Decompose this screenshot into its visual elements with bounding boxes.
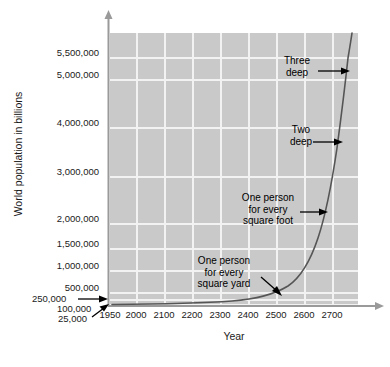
gridline-horizontal bbox=[110, 248, 358, 250]
gridline-horizontal bbox=[110, 57, 358, 59]
y-tick-label-25000: 25,000 bbox=[58, 314, 87, 324]
y-tick-label: 1,500,000 bbox=[57, 239, 99, 249]
annotation-square-yard: One person for every square yard bbox=[186, 255, 262, 290]
annotation-square-foot: One person for every square foot bbox=[232, 192, 304, 227]
x-tick-label: 2000 bbox=[122, 309, 150, 320]
x-tick-label: 2200 bbox=[178, 309, 206, 320]
x-tick-label: 2600 bbox=[290, 309, 318, 320]
x-tick-label: 2400 bbox=[234, 309, 262, 320]
x-tick-label: 2500 bbox=[262, 309, 290, 320]
x-tick-label: 2700 bbox=[318, 309, 346, 320]
y-tick-label: 1,000,000 bbox=[57, 261, 99, 271]
gridline-vertical bbox=[332, 33, 334, 305]
y-tick-label: 2,000,000 bbox=[57, 214, 99, 224]
y-tick-label: 5,000,000 bbox=[57, 70, 99, 80]
annotation-three-deep: Three deep bbox=[274, 55, 320, 78]
gridline-vertical bbox=[164, 33, 166, 305]
population-growth-chart: 5,500,000 5,000,000 4,000,000 3,000,000 … bbox=[0, 0, 390, 367]
y-tick-label: 4,000,000 bbox=[57, 118, 99, 128]
x-tick-label: 2300 bbox=[206, 309, 234, 320]
gridline-horizontal bbox=[110, 79, 358, 81]
gridline-horizontal bbox=[110, 176, 358, 178]
gridline-horizontal bbox=[110, 299, 358, 301]
gridline-horizontal bbox=[110, 292, 358, 294]
x-axis-title: Year bbox=[110, 330, 358, 342]
x-tick-label: 1950 bbox=[96, 309, 124, 320]
y-tick-label: 500,000 bbox=[65, 283, 99, 293]
y-tick-label: 5,500,000 bbox=[57, 48, 99, 58]
gridline-horizontal bbox=[110, 304, 358, 306]
x-tick-label: 2100 bbox=[150, 309, 178, 320]
gridline-vertical bbox=[136, 33, 138, 305]
y-axis-title: World population in billions bbox=[12, 74, 24, 234]
annotation-two-deep: Two deep bbox=[281, 124, 321, 147]
y-tick-label: 3,000,000 bbox=[57, 167, 99, 177]
